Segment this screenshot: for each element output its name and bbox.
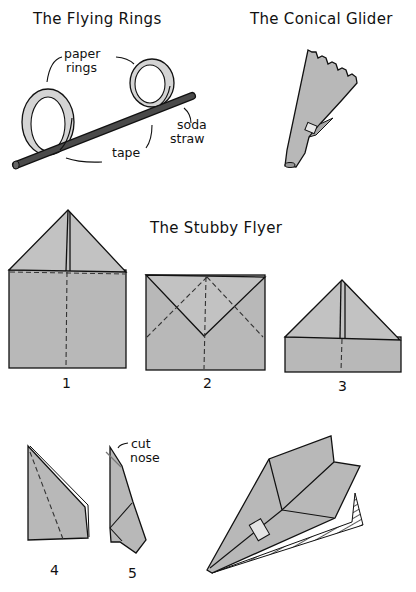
- step-1-number: 1: [62, 375, 71, 391]
- step-3-number: 3: [338, 378, 347, 394]
- soda-straw-label-line2: straw: [170, 132, 204, 145]
- paper-rings-leader: [47, 57, 62, 82]
- step-3-figure: [285, 280, 401, 372]
- conical-glider-figure: [285, 50, 357, 168]
- cut-nose-label-line1: cut: [131, 437, 151, 450]
- illustration-canvas: [0, 0, 416, 592]
- step-2-number: 2: [203, 375, 212, 391]
- stubby-flyer-title: The Stubby Flyer: [150, 219, 282, 237]
- flying-rings-title: The Flying Rings: [33, 10, 162, 28]
- finished-plane-figure: [207, 436, 363, 573]
- tape-leader: [66, 158, 102, 162]
- flying-rings-figure: [13, 57, 192, 169]
- cut-nose-leader: [118, 443, 128, 448]
- step-5-number: 5: [128, 565, 137, 581]
- step-4-figure: [28, 446, 89, 540]
- step-1-figure: [9, 210, 126, 368]
- paper-rings-label-line2: rings: [66, 61, 97, 74]
- step-4-number: 4: [50, 562, 59, 578]
- conical-glider-title: The Conical Glider: [250, 10, 393, 28]
- cut-nose-label-line2: nose: [130, 451, 160, 464]
- tape-label: tape: [112, 146, 140, 159]
- paper-rings-label-line1: paper: [64, 47, 100, 60]
- step-2-figure: [146, 275, 265, 370]
- soda-straw-label-line1: soda: [177, 118, 207, 131]
